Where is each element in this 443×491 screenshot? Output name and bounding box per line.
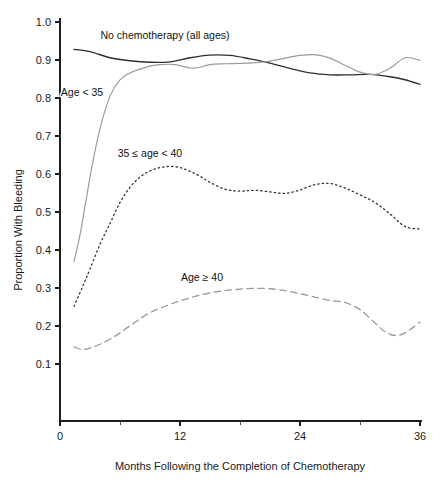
series-label-no-chemotherapy: No chemotherapy (all ages) <box>101 29 230 41</box>
x-tick-label: 36 <box>414 430 426 442</box>
curve-age-35-to-40 <box>74 166 420 306</box>
x-axis-title: Months Following the Completion of Chemo… <box>115 460 366 472</box>
y-tick-label: 0.1 <box>36 358 51 370</box>
series-label-age-40-plus: Age ≥ 40 <box>181 271 223 283</box>
series-label-age-under-35: Age < 35 <box>61 86 103 98</box>
y-tick-label: 0.4 <box>36 244 51 256</box>
curve-age-40-plus <box>74 288 420 349</box>
y-tick-label: 0.2 <box>36 320 51 332</box>
chart-figure: 0.10.20.30.40.50.60.70.80.91.0 0122436 N… <box>0 0 443 491</box>
y-tick-label: 0.9 <box>36 54 51 66</box>
curve-no-chemotherapy <box>74 49 420 84</box>
axes: 0.10.20.30.40.50.60.70.80.91.0 0122436 <box>36 16 426 442</box>
x-tick-label: 0 <box>57 430 63 442</box>
line-chart: 0.10.20.30.40.50.60.70.80.91.0 0122436 N… <box>0 0 443 491</box>
y-tick-label: 0.5 <box>36 206 51 218</box>
y-tick-label: 0.7 <box>36 130 51 142</box>
y-tick-label: 0.8 <box>36 92 51 104</box>
x-tick-label: 24 <box>294 430 306 442</box>
y-axis-title: Proportion With Bleeding <box>12 169 24 291</box>
x-axis-ticks: 0122436 <box>57 421 426 442</box>
y-tick-label: 0.6 <box>36 168 51 180</box>
y-tick-label: 1.0 <box>36 16 51 28</box>
y-tick-label: 0.3 <box>36 282 51 294</box>
x-tick-label: 12 <box>174 430 186 442</box>
y-axis-ticks: 0.10.20.30.40.50.60.70.80.91.0 <box>36 16 60 370</box>
series-label-age-35-to-40: 35 ≤ age < 40 <box>118 147 183 159</box>
series-curves <box>74 49 420 349</box>
